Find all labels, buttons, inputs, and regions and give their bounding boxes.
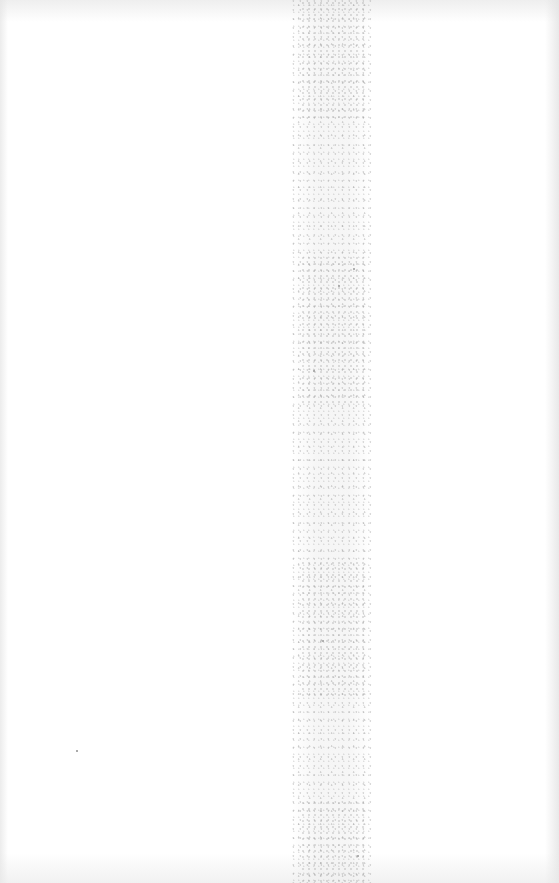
blank-document-page xyxy=(0,0,559,883)
page-content xyxy=(0,0,559,883)
